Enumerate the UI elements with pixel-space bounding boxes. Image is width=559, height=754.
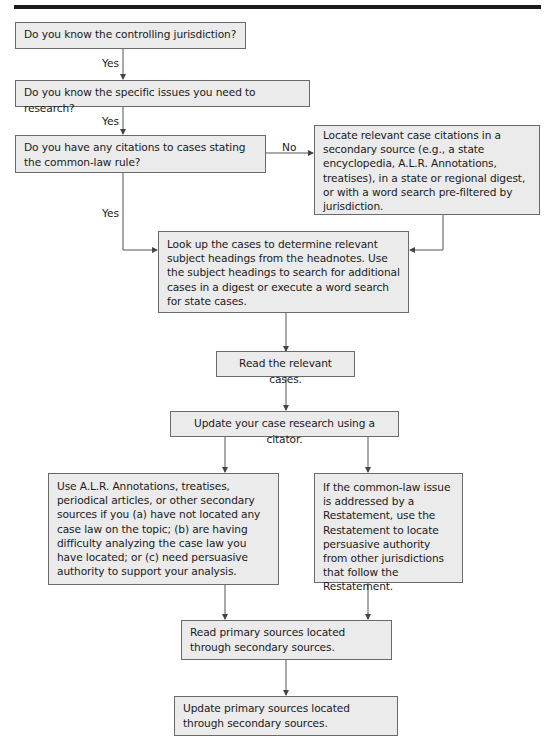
node-update-primary-sources: Update primary sources located through s…: [174, 696, 398, 736]
node-restatement: If the common-law issue is addressed by …: [314, 473, 463, 583]
node-use-secondary-sources: Use A.L.R. Annotations, treatises, perio…: [48, 473, 279, 585]
node-read-relevant-cases: Read the relevant cases.: [216, 351, 355, 377]
edge-label-yes: Yes: [102, 115, 119, 127]
edge-label-no: No: [282, 141, 296, 153]
node-locate-citations: Locate relevant case citations in a seco…: [314, 125, 540, 215]
node-read-primary-sources: Read primary sources located through sec…: [181, 620, 392, 660]
node-update-citator: Update your case research using a citato…: [170, 411, 399, 437]
edge-label-yes: Yes: [102, 207, 119, 219]
node-look-up-cases: Look up the cases to determine relevant …: [158, 231, 409, 313]
node-controlling-jurisdiction: Do you know the controlling jurisdiction…: [15, 22, 246, 49]
node-specific-issues: Do you know the specific issues you need…: [15, 80, 310, 107]
edge-label-yes: Yes: [102, 57, 119, 69]
node-case-citations-question: Do you have any citations to cases stati…: [15, 135, 266, 173]
